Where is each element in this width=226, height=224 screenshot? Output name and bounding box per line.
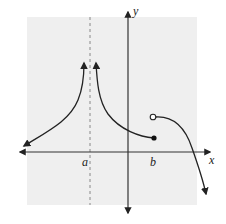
y-axis-label: y	[132, 4, 139, 18]
b-label: b	[150, 155, 156, 169]
plot-background	[27, 17, 197, 205]
a-label: a	[82, 155, 88, 169]
x-axis-label: x	[208, 153, 215, 167]
function-graph: x y a b	[0, 0, 226, 224]
closed-point	[151, 135, 156, 140]
open-point	[150, 114, 156, 120]
